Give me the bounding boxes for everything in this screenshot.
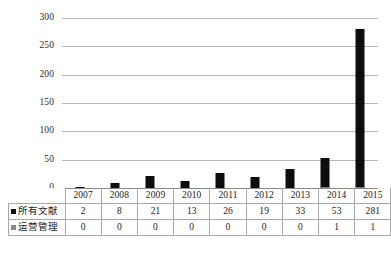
y-axis-tick-label-300: 300 — [39, 13, 54, 23]
table-cell-2012-row2: 0 — [246, 220, 282, 236]
bar-group-2008 — [97, 18, 132, 188]
bar-group-2007 — [62, 18, 97, 188]
table-cell-2010-row2: 0 — [174, 220, 210, 236]
table-cell-2013-row2: 0 — [282, 220, 318, 236]
table-cell-2008-row2: 0 — [101, 220, 137, 236]
bar-2015-series-1 — [356, 29, 365, 188]
table-header-2009: 2009 — [137, 188, 173, 204]
y-axis-tick-label-50: 50 — [44, 155, 54, 165]
table-cell-2010-row1: 13 — [174, 204, 210, 220]
table-corner-cell — [9, 188, 66, 204]
table-cell-2009-row1: 21 — [137, 204, 173, 220]
legend-swatch-icon — [11, 225, 16, 230]
table-cell-2011-row2: 0 — [210, 220, 246, 236]
y-axis-tick-label-150: 150 — [39, 98, 54, 108]
table-header-2015: 2015 — [355, 188, 391, 204]
table-cell-2015-row2: 1 — [355, 220, 391, 236]
plot-area — [62, 18, 378, 188]
bar-group-2011 — [202, 18, 237, 188]
table-header-row: 200720082009201020112012201320142015 — [9, 188, 391, 204]
table-cell-2012-row1: 19 — [246, 204, 282, 220]
table-row: 所有文献28211326193353281 — [9, 204, 391, 220]
bar-2014-series-1 — [321, 158, 330, 188]
y-axis-tick-label-100: 100 — [39, 127, 54, 137]
bar-series-container — [62, 18, 378, 188]
legend-swatch-icon — [11, 209, 16, 214]
legend-label: 所有文献 — [18, 205, 59, 218]
bar-2011-series-1 — [215, 173, 224, 188]
data-table: 200720082009201020112012201320142015所有文献… — [8, 188, 391, 236]
bar-group-2010 — [167, 18, 202, 188]
table-header-2013: 2013 — [282, 188, 318, 204]
bar-group-2014 — [308, 18, 343, 188]
legend-label: 运营管理 — [18, 221, 59, 234]
table-header-2008: 2008 — [101, 188, 137, 204]
table-header-2010: 2010 — [174, 188, 210, 204]
table-header-2012: 2012 — [246, 188, 282, 204]
table-header-2014: 2014 — [319, 188, 355, 204]
bar-2010-series-1 — [180, 181, 189, 188]
bar-group-2015 — [343, 18, 378, 188]
table-cell-2007-row1: 2 — [65, 204, 101, 220]
y-axis-tick-label-200: 200 — [39, 70, 54, 80]
bar-2013-series-1 — [286, 169, 295, 188]
legend-item-2[interactable]: 运营管理 — [9, 220, 66, 236]
bar-group-2012 — [238, 18, 273, 188]
bar-2012-series-1 — [251, 177, 260, 188]
table-header-2007: 2007 — [65, 188, 101, 204]
y-axis-tick-label-250: 250 — [39, 42, 54, 52]
table-row: 运营管理000000011 — [9, 220, 391, 236]
table-cell-2014-row1: 53 — [319, 204, 355, 220]
table-cell-2015-row1: 281 — [355, 204, 391, 220]
bar-group-2009 — [132, 18, 167, 188]
table-cell-2011-row1: 26 — [210, 204, 246, 220]
table-cell-2014-row2: 1 — [319, 220, 355, 236]
table-cell-2009-row2: 0 — [137, 220, 173, 236]
table-cell-2008-row1: 8 — [101, 204, 137, 220]
table-cell-2013-row1: 33 — [282, 204, 318, 220]
table-cell-2007-row2: 0 — [65, 220, 101, 236]
bar-group-2013 — [273, 18, 308, 188]
table-header-2011: 2011 — [210, 188, 246, 204]
legend-item-1[interactable]: 所有文献 — [9, 204, 66, 220]
bar-2009-series-1 — [145, 176, 154, 188]
